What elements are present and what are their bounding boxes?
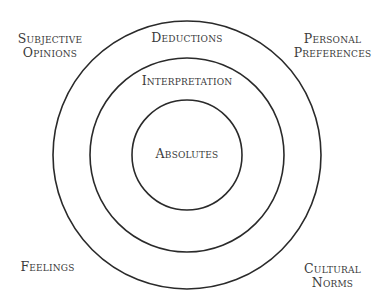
label-feelings: Feelings — [10, 260, 85, 274]
label-cultural-norms: Cultural Norms — [290, 262, 375, 290]
label-absolutes: Absolutes — [137, 147, 237, 161]
label-personal-preferences: Personal Preferences — [285, 32, 380, 60]
label-subjective-opinions: Subjective Opinions — [10, 32, 90, 60]
label-interpretation: Interpretation — [117, 74, 257, 88]
label-deductions: Deductions — [137, 31, 237, 45]
concentric-circles-diagram: Subjective Opinions Personal Preferences… — [0, 0, 383, 307]
